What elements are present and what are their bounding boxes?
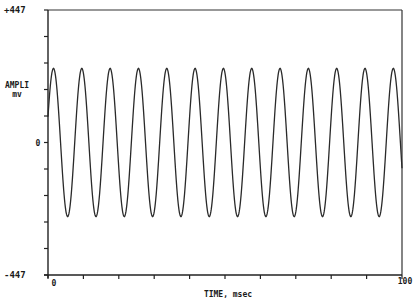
y-axis bbox=[44, 10, 48, 278]
y-max-label: +447 bbox=[4, 5, 26, 15]
x-min-label: 0 bbox=[52, 279, 57, 288]
y-axis-unit: mv bbox=[12, 90, 22, 99]
plot-frame bbox=[48, 10, 402, 275]
x-max-label: 100 bbox=[398, 277, 413, 286]
signal-waveform bbox=[48, 68, 402, 216]
line-chart: +447 0 -447 AMPLI mv 0 100 TIME, msec bbox=[0, 0, 418, 305]
y-min-label: -447 bbox=[4, 270, 26, 280]
x-axis bbox=[44, 275, 402, 279]
x-axis-title: TIME, msec bbox=[204, 290, 252, 299]
y-zero-label: 0 bbox=[36, 139, 41, 148]
y-axis-title: AMPLI bbox=[5, 81, 29, 90]
